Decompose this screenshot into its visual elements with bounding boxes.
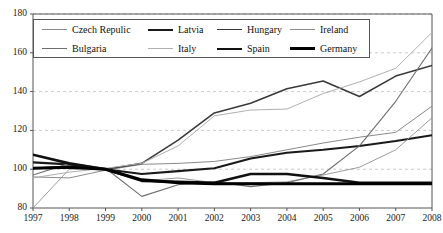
legend-swatch-icon [148,48,173,49]
x-tick-label-1998: 1998 [53,214,85,224]
legend-item-ireland[interactable]: Ireland [282,20,348,39]
legend-label: Latvia [178,25,204,35]
series-line-hungary [33,65,432,169]
x-tick-label-1999: 1999 [90,214,122,224]
legend-label: Hungary [247,25,282,35]
legend-item-hungary[interactable]: Hungary [209,20,282,39]
x-tick-label-2002: 2002 [198,214,230,224]
series-lines [33,32,432,208]
y-tick-label-80: 80 [2,203,27,213]
legend-label: Bulgaria [72,44,106,54]
legend-swatch-icon [217,29,242,30]
line-chart: 80100120140160180 1997199819992000200120… [0,0,443,233]
x-tick-label-2004: 2004 [271,214,303,224]
legend: Czech RepulicLatviaHungaryIrelandBulgari… [33,19,370,58]
x-tick-label-2005: 2005 [307,214,339,224]
legend-swatch-icon [290,29,315,30]
legend-label: Ireland [320,25,348,35]
y-tick-label-180: 180 [2,9,27,19]
legend-item-czech-repulic[interactable]: Czech Repulic [34,20,131,39]
legend-row-1: Czech RepulicLatviaHungaryIreland [34,20,369,39]
legend-swatch-icon [148,29,173,31]
legend-item-spain[interactable]: Spain [209,39,270,58]
legend-item-bulgaria[interactable]: Bulgaria [34,39,106,58]
legend-label: Spain [247,44,270,54]
x-tick-label-2000: 2000 [126,214,158,224]
x-tick-label-2007: 2007 [380,214,412,224]
legend-swatch-icon [42,48,67,49]
legend-label: Czech Repulic [72,25,131,35]
legend-item-italy[interactable]: Italy [140,39,196,58]
x-tick-label-1997: 1997 [17,214,49,224]
legend-swatch-icon [42,29,67,30]
legend-swatch-icon [290,47,315,50]
x-tick-label-2003: 2003 [235,214,267,224]
legend-item-latvia[interactable]: Latvia [140,20,204,39]
y-tick-label-100: 100 [2,164,27,174]
x-tick-label-2001: 2001 [162,214,194,224]
legend-label: Italy [178,44,196,54]
y-tick-label-140: 140 [2,87,27,97]
legend-label: Germany [320,44,357,54]
y-tick-label-160: 160 [2,48,27,58]
legend-item-germany[interactable]: Germany [282,39,357,58]
series-line-germany [33,167,432,183]
legend-row-2: BulgariaItalySpainGermany [34,39,369,58]
x-tick-label-2008: 2008 [416,214,443,224]
x-tick-label-2006: 2006 [343,214,375,224]
series-line-bulgaria [33,48,432,196]
y-tick-label-120: 120 [2,125,27,135]
legend-swatch-icon [217,48,242,50]
